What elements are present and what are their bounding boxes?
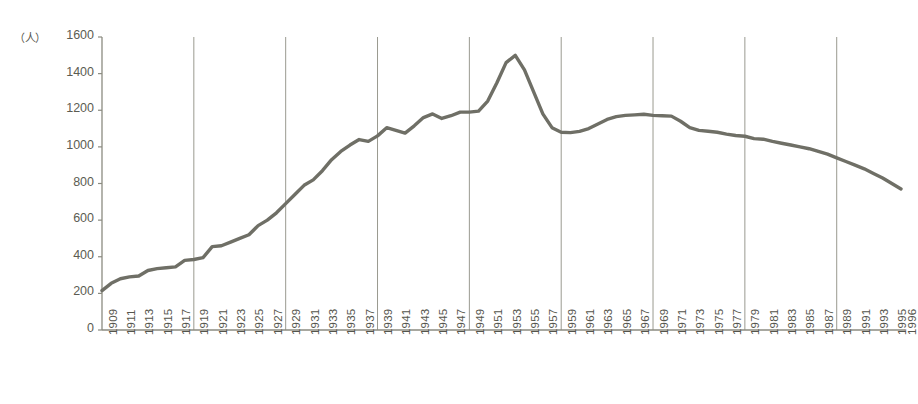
- x-axis-tick-label: 1963: [602, 309, 614, 335]
- x-axis-tick-label: 1919: [198, 309, 210, 335]
- x-axis-tick-label: 1957: [547, 309, 559, 335]
- x-axis-tick-label: 1987: [823, 309, 835, 335]
- x-axis-tick-label: 1955: [529, 309, 541, 335]
- x-axis-tick-label: 1959: [566, 309, 578, 335]
- x-axis-tick-label: 1933: [327, 309, 339, 335]
- x-axis-tick-label: 1949: [474, 309, 486, 335]
- x-axis-tick-label: 1985: [804, 309, 816, 335]
- y-axis-tick-label: 0: [87, 321, 94, 335]
- y-axis-tick-label: 200: [73, 284, 94, 298]
- x-axis-tick-label: 1911: [125, 309, 137, 335]
- x-axis-tick-label: 1989: [841, 309, 853, 335]
- data-line-series-0: [102, 55, 901, 290]
- x-axis-tick-label: 1953: [511, 309, 523, 335]
- x-axis-tick-label: 1969: [658, 309, 670, 335]
- x-axis-tick-label: 1991: [860, 309, 872, 335]
- x-axis-tick-label: 1917: [180, 309, 192, 335]
- y-axis-tick-label: 800: [73, 175, 94, 189]
- line-chart: （人） 02004006008001000120014001600 190919…: [0, 0, 918, 404]
- chart-canvas: [0, 0, 918, 404]
- x-axis-tick-label: 1981: [768, 309, 780, 335]
- x-axis-tick-label: 1975: [713, 309, 725, 335]
- x-axis-tick-label: 1965: [621, 309, 633, 335]
- x-axis-tick-label: 1993: [878, 309, 890, 335]
- x-axis-tick-label: 1929: [290, 309, 302, 335]
- x-axis-tick-label: 1939: [382, 309, 394, 335]
- x-axis-tick-label: 1973: [694, 309, 706, 335]
- x-axis-tick-label: 1996: [906, 309, 918, 335]
- y-axis-tick-label: 1200: [66, 101, 94, 115]
- x-axis-tick-label: 1913: [143, 309, 155, 335]
- y-axis-tick-label: 400: [73, 248, 94, 262]
- x-axis-tick-label: 1945: [437, 309, 449, 335]
- x-axis-tick-label: 1923: [235, 309, 247, 335]
- x-axis-tick-label: 1915: [162, 309, 174, 335]
- x-axis-tick-label: 1983: [786, 309, 798, 335]
- x-axis-tick-label: 1979: [749, 309, 761, 335]
- x-axis-tick-label: 1937: [364, 309, 376, 335]
- y-axis-tick-label: 1600: [66, 28, 94, 42]
- x-axis-tick-label: 1961: [584, 309, 596, 335]
- x-axis-tick-label: 1941: [400, 309, 412, 335]
- x-axis-tick-label: 1921: [217, 309, 229, 335]
- x-axis-tick-label: 1935: [345, 309, 357, 335]
- x-axis-tick-label: 1931: [309, 309, 321, 335]
- gridlines: [194, 37, 837, 330]
- x-axis-tick-label: 1971: [676, 309, 688, 335]
- x-axis-tick-label: 1927: [272, 309, 284, 335]
- x-axis-tick-label: 1967: [639, 309, 651, 335]
- y-axis-tick-label: 1400: [66, 65, 94, 79]
- x-axis-tick-label: 1947: [455, 309, 467, 335]
- y-axis-tick-label: 1000: [66, 138, 94, 152]
- y-axis-unit-label: （人）: [14, 29, 46, 45]
- y-axis-tick-label: 600: [73, 211, 94, 225]
- x-axis-tick-label: 1925: [253, 309, 265, 335]
- axes: [102, 37, 905, 330]
- x-axis-tick-label: 1977: [731, 309, 743, 335]
- x-axis-tick-label: 1909: [107, 309, 119, 335]
- x-axis-tick-label: 1943: [419, 309, 431, 335]
- x-axis-tick-label: 1951: [492, 309, 504, 335]
